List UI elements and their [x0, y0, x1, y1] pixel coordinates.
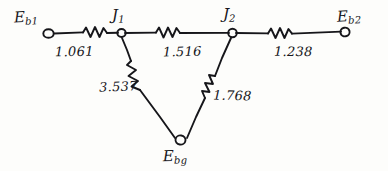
- wire-resistor4-to-ebg: [140, 90, 175, 138]
- circuit-svg-canvas: [0, 0, 388, 171]
- node-label-eb2: Eb2: [337, 8, 362, 26]
- node-label-j1: J1: [112, 8, 125, 25]
- resistor-symbol-1516: [156, 28, 180, 38]
- node-label-j2-sub: 2: [229, 13, 236, 24]
- node-label-eb1: Eb1: [14, 9, 39, 27]
- wire-resistor5-to-ebg: [187, 98, 205, 138]
- node-label-eb1-sub: b1: [25, 15, 39, 27]
- node-label-ebg: Ebg: [163, 149, 188, 166]
- branch-value-j2-eb2: 1.238: [274, 45, 313, 58]
- node-label-j1-sub: 1: [118, 14, 125, 25]
- wire-j1-to-resistor4: [122, 38, 131, 61]
- circuit-diagram: Eb1 J1 J2 Eb2 Ebg 1.061 1.516 1.238 3.53…: [0, 0, 388, 171]
- node-label-eb2-base: E: [336, 7, 348, 26]
- node-label-eb1-base: E: [14, 8, 26, 26]
- wire-j2-to-resistor5: [215, 38, 231, 76]
- wire-resistor3-to-eb2: [292, 32, 341, 34]
- node-label-j2: J2: [223, 7, 236, 24]
- wire-eb1-to-resistor1: [54, 32, 83, 33]
- node-label-ebg-sub: bg: [174, 154, 187, 165]
- resistor-symbol-1061: [83, 27, 107, 37]
- node-circle-ebg: [175, 135, 186, 146]
- node-circle-eb1: [43, 29, 53, 38]
- node-label-eb2-sub: b2: [348, 14, 362, 26]
- node-label-ebg-base: E: [163, 147, 174, 165]
- branch-value-j1-ebg: 3.537: [99, 79, 138, 93]
- resistor-symbol-1238: [268, 28, 292, 38]
- branch-value-j2-ebg: 1.768: [213, 88, 252, 102]
- branch-value-eb1-j1: 1.061: [55, 45, 94, 59]
- node-circle-eb2: [340, 27, 351, 38]
- branch-value-j1-j2: 1.516: [163, 44, 202, 58]
